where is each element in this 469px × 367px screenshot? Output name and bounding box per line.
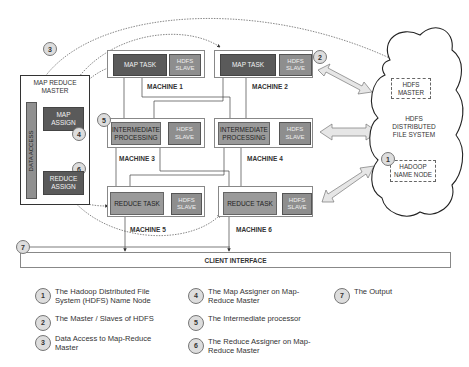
legend-badge-4: 4 (188, 288, 204, 304)
legend-item-3: 3 Data Access to Map-Reduce Master (35, 334, 165, 353)
data-access-label: DATA ACCESS (29, 130, 35, 171)
badge-2: 2 (313, 50, 327, 64)
hdfs-slave-4: HDFS SLAVE (279, 122, 311, 145)
master-title: MAP REDUCE MASTER (22, 79, 88, 95)
hdfs-slave-3: HDFS SLAVE (168, 122, 201, 145)
legend-badge-3: 3 (35, 335, 51, 351)
legend-badge-5: 5 (188, 315, 204, 331)
reduce-task-5: REDUCE TASK (110, 192, 164, 215)
hdfs-distributed-label: HDFS DISTRIBUTED FILE SYSTEM (392, 115, 436, 139)
legend-text-2: The Master / Slaves of HDFS (55, 314, 154, 323)
badge-5: 5 (97, 113, 111, 127)
machine-6-label: MACHINE 6 (236, 226, 272, 233)
legend-badge-2: 2 (35, 315, 51, 331)
legend-text-1: The Hadoop Distributed File System (HDFS… (55, 287, 165, 306)
hdfs-slave-6: HDFS SLAVE (282, 193, 312, 215)
badge-1: 1 (381, 152, 395, 166)
hdfs-slave-1: HDFS SLAVE (169, 54, 201, 76)
legend-text-6: The Reduce Assigner on Map-Reduce Master (208, 337, 323, 356)
legend-badge-6: 6 (188, 338, 204, 354)
intermediate-processing-3: INTERMEDIATE PROCESSING (111, 122, 161, 145)
legend-item-6: 6 The Reduce Assigner on Map-Reduce Mast… (188, 337, 323, 356)
badge-7: 7 (16, 240, 30, 254)
legend-item-4: 4 The Map Assigner on Map-Reduce Master (188, 287, 323, 306)
machine-4-label: MACHINE 4 (247, 155, 283, 162)
legend-badge-7: 7 (334, 288, 350, 304)
data-access-bar: DATA ACCESS (26, 102, 37, 199)
hdfs-slave-5: HDFS SLAVE (171, 193, 202, 215)
legend-text-7: The Output (354, 287, 392, 296)
badge-3: 3 (43, 42, 57, 56)
legend-text-5: The Intermediate processor (208, 314, 301, 323)
machine-2-label: MACHINE 2 (252, 83, 288, 90)
legend-item-1: 1 The Hadoop Distributed File System (HD… (35, 287, 165, 306)
hdfs-slave-2: HDFS SLAVE (279, 54, 312, 76)
machine-1-label: MACHINE 1 (147, 83, 183, 90)
intermediate-processing-4: INTERMEDIATE PROCESSING (218, 122, 270, 145)
machine-3-label: MACHINE 3 (119, 155, 155, 162)
map-task-1: MAP TASK (113, 54, 167, 76)
reduce-assign-box: REDUCE ASSIGN (43, 171, 84, 195)
hadoop-name-node-box: HADOOP NAME NODE (390, 160, 436, 182)
client-interface-label: CLIENT INTERFACE (204, 257, 266, 264)
legend-text-3: Data Access to Map-Reduce Master (55, 334, 165, 353)
badge-4: 4 (72, 127, 86, 141)
reduce-task-6: REDUCE TASK (223, 192, 277, 215)
legend-item-7: 7 The Output (334, 287, 444, 304)
legend-text-4: The Map Assigner on Map-Reduce Master (208, 287, 323, 306)
machine-5-label: MACHINE 5 (130, 226, 166, 233)
hdfs-master-box: HDFS MASTER (391, 78, 431, 99)
map-task-2: MAP TASK (220, 54, 276, 76)
legend-badge-1: 1 (35, 288, 51, 304)
legend-item-2: 2 The Master / Slaves of HDFS (35, 314, 165, 331)
legend-item-5: 5 The Intermediate processor (188, 314, 323, 331)
client-interface-bar: CLIENT INTERFACE (20, 252, 451, 268)
